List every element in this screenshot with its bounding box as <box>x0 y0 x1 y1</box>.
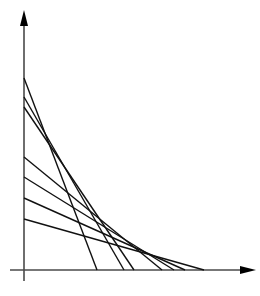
tangent-line <box>24 97 124 270</box>
tangent-lines <box>24 78 204 270</box>
tangent-line <box>24 219 204 270</box>
tangent-line <box>24 78 97 270</box>
envelope-diagram <box>0 0 260 296</box>
tangent-line <box>24 198 185 270</box>
y-axis-arrow-icon <box>20 10 28 26</box>
tangent-line <box>24 177 174 270</box>
axes <box>10 10 256 281</box>
tangent-line <box>24 157 162 270</box>
x-axis-arrow-icon <box>240 266 256 274</box>
